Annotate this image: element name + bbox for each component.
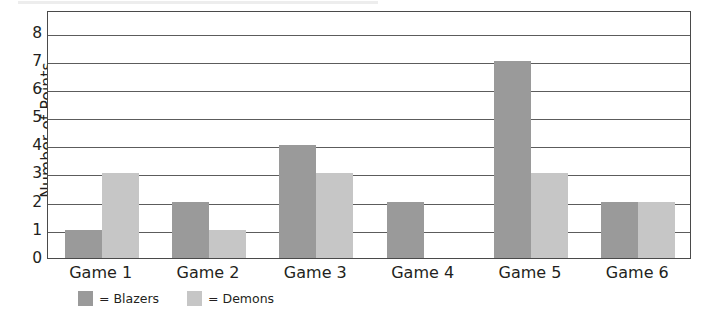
bar-blazers-game-4 — [387, 202, 424, 258]
bar-demons-game-1 — [102, 173, 139, 258]
legend-swatch-blazers-icon — [78, 291, 93, 306]
bar-demons-game-2 — [209, 230, 246, 258]
legend: = Blazers= Demons — [78, 291, 274, 306]
x-label-game-6: Game 6 — [584, 263, 691, 282]
bar-demons-game-3 — [316, 173, 353, 258]
bar-demons-game-6 — [638, 202, 675, 258]
bar-demons-game-5 — [531, 173, 568, 258]
y-tick-label-0: 0 — [12, 251, 42, 267]
x-label-game-1: Game 1 — [47, 263, 154, 282]
y-tick-label-1: 1 — [12, 223, 42, 239]
legend-label-demons: = Demons — [208, 291, 274, 306]
scan-artifact — [18, 1, 378, 4]
legend-item-blazers: = Blazers — [78, 291, 159, 306]
legend-item-demons: = Demons — [187, 291, 274, 306]
legend-label-blazers: = Blazers — [99, 291, 159, 306]
y-tick-label-2: 2 — [12, 195, 42, 211]
legend-swatch-demons-icon — [187, 291, 202, 306]
x-axis-category-labels: Game 1Game 2Game 3Game 4Game 5Game 6 — [47, 263, 691, 287]
x-label-game-5: Game 5 — [476, 263, 583, 282]
x-label-game-4: Game 4 — [369, 263, 476, 282]
y-tick-label-3: 3 — [12, 167, 42, 183]
bar-chart: Number of Points 012345678 Game 1Game 2G… — [0, 0, 701, 315]
bar-blazers-game-1 — [65, 230, 102, 258]
x-label-game-2: Game 2 — [154, 263, 261, 282]
bars-layer — [48, 12, 690, 258]
bar-blazers-game-6 — [601, 202, 638, 258]
y-axis-tick-labels: 012345678 — [12, 11, 42, 259]
y-tick-label-8: 8 — [12, 26, 42, 42]
y-tick-label-4: 4 — [12, 139, 42, 155]
bar-blazers-game-2 — [172, 202, 209, 258]
x-label-game-3: Game 3 — [262, 263, 369, 282]
y-tick-label-6: 6 — [12, 82, 42, 98]
bar-blazers-game-3 — [279, 145, 316, 258]
y-tick-label-7: 7 — [12, 54, 42, 70]
y-tick-label-5: 5 — [12, 110, 42, 126]
plot-area — [47, 11, 691, 259]
bar-blazers-game-5 — [494, 61, 531, 258]
